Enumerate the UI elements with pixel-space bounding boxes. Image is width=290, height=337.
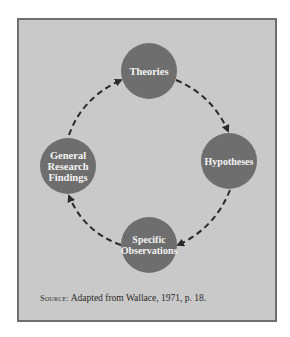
source-label: Source: [40, 293, 69, 303]
node-hypotheses: Hypotheses [201, 133, 257, 189]
arrow-theories-to-hypotheses [176, 80, 228, 131]
node-label: Hypotheses [205, 156, 254, 167]
node-label: Specific [132, 234, 165, 245]
source-caption: Source: Adapted from Wallace, 1971, p. 1… [40, 293, 206, 303]
node-specific-observations: Specific Observations [121, 217, 177, 273]
source-text: Adapted from Wallace, 1971, p. 18. [71, 293, 206, 303]
arrow-findings-to-theories [69, 80, 121, 135]
node-label: Observations [121, 245, 178, 256]
node-label: General [50, 150, 86, 161]
arrow-hypotheses-to-observations [178, 190, 230, 245]
node-general-research-findings: General Research Findings [40, 138, 96, 194]
node-label: Findings [48, 172, 87, 183]
node-theories: Theories [121, 43, 177, 99]
arrow-observations-to-findings [69, 196, 121, 245]
node-label: Theories [129, 66, 168, 77]
node-label: Research [47, 161, 88, 172]
